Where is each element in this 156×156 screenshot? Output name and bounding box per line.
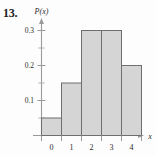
y-axis-arrow-icon (39, 18, 44, 24)
x-tick-label-2: 2 (90, 143, 94, 152)
y-tick-label-0: 0.3 (25, 26, 35, 35)
bars (42, 31, 142, 136)
x-tick-label-1: 1 (70, 143, 74, 152)
y-tick-label-1: 0.2 (25, 61, 35, 70)
x-tick-label-4: 4 (130, 143, 134, 152)
x-tick-label-3: 3 (110, 143, 114, 152)
bar-1 (62, 83, 82, 136)
x-ticks (42, 136, 142, 142)
histogram-plot: 0.3 0.2 0.1 0 1 2 3 4 P(x) x (0, 0, 156, 156)
x-axis-label: x (147, 132, 152, 141)
bar-3 (102, 31, 122, 136)
x-tick-label-0: 0 (50, 143, 54, 152)
bar-2 (82, 31, 102, 136)
bar-0 (42, 118, 62, 136)
bar-4 (122, 66, 142, 136)
y-tick-label-2: 0.1 (25, 96, 35, 105)
histogram-svg: 0.3 0.2 0.1 0 1 2 3 4 P(x) x (0, 0, 156, 156)
figure-container: 13. (0, 0, 156, 156)
y-axis-label: P(x) (34, 7, 49, 16)
